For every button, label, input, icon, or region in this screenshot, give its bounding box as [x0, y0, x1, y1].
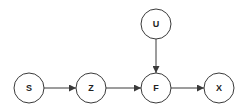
node-f: F [141, 73, 171, 103]
node-u: U [141, 9, 171, 39]
node-s-label: S [26, 83, 32, 93]
node-z-label: Z [88, 83, 94, 93]
node-u-label: U [153, 19, 160, 29]
node-x-label: X [216, 83, 222, 93]
node-f-label: F [153, 83, 159, 93]
node-z: Z [76, 73, 106, 103]
node-s: S [14, 73, 44, 103]
causal-graph: S Z F U X [0, 0, 248, 112]
node-x: X [204, 73, 234, 103]
